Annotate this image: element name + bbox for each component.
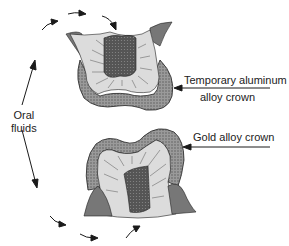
gold-crown-text: Gold alloy crown bbox=[193, 131, 274, 144]
top-tooth bbox=[66, 22, 173, 110]
temporary-crown-line1: Temporary aluminum bbox=[184, 74, 287, 87]
temporary-crown-label: Temporary aluminum alloy crown bbox=[184, 74, 287, 104]
dental-diagram bbox=[0, 0, 289, 246]
bottom-tooth bbox=[84, 129, 196, 218]
oral-fluids-label: Oral fluids bbox=[11, 109, 37, 135]
gold-crown-label: Gold alloy crown bbox=[193, 131, 274, 144]
fluids-label-line2: fluids bbox=[11, 122, 37, 135]
oral-label-line1: Oral bbox=[11, 109, 37, 122]
temporary-crown-line2: alloy crown bbox=[184, 91, 287, 104]
